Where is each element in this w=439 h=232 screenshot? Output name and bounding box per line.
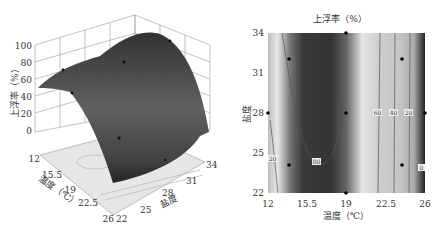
svg-text:12: 12 [29,154,40,164]
x-axis: 12 15.5 19 22.5 26 [262,199,431,209]
svg-text:20: 20 [21,109,33,119]
svg-text:28: 28 [253,108,265,118]
surface-plot-panel: 100 80 60 40 20 0 上浮率（%） 12 15.5 19 22.5… [0,0,220,232]
svg-text:26: 26 [419,199,431,209]
y-axis: 34 31 28 25 22 [253,28,265,198]
svg-text:31: 31 [253,68,264,78]
contour-plot-panel: 上浮率（%） 20 80 60 40 20 0 34 31 28 25 22 盐… [220,0,439,232]
svg-text:40: 40 [21,92,33,102]
y-axis-label: 盐度 [241,105,252,123]
svg-text:20: 20 [405,109,413,116]
svg-text:80: 80 [313,158,321,165]
svg-text:26: 26 [103,214,115,224]
svg-text:34: 34 [253,28,265,38]
contour-plot: 上浮率（%） 20 80 60 40 20 0 34 31 28 25 22 盐… [220,0,439,232]
svg-text:25: 25 [140,205,152,215]
svg-text:22.5: 22.5 [376,199,396,209]
surface-plot: 100 80 60 40 20 0 上浮率（%） 12 15.5 19 22.5… [0,0,220,232]
svg-text:22.5: 22.5 [78,198,98,208]
svg-text:60: 60 [374,109,382,116]
svg-text:80: 80 [21,58,33,68]
svg-text:12: 12 [262,199,273,209]
svg-text:15.5: 15.5 [297,199,317,209]
contour-title: 上浮率（%） [313,13,367,24]
svg-text:25: 25 [253,148,265,158]
svg-text:0: 0 [26,126,32,136]
svg-text:40: 40 [390,109,398,116]
svg-text:22: 22 [116,214,127,224]
svg-text:20: 20 [269,155,277,162]
svg-text:0: 0 [420,164,424,171]
svg-text:22: 22 [253,188,264,198]
x-axis-label: 温度（℃） [323,210,369,221]
svg-text:100: 100 [15,41,32,51]
svg-text:19: 19 [340,199,352,209]
svg-text:31: 31 [186,176,197,186]
svg-text:60: 60 [21,75,33,85]
z-axis-label: 上浮率（%） [9,64,20,118]
svg-text:34: 34 [206,160,218,170]
